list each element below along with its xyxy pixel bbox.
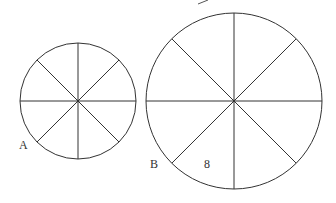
sector-label: 8 [204,157,210,172]
circle-a [20,43,136,159]
top-text-remnant [198,0,208,4]
circle-b [146,13,322,189]
label-b: B [150,157,158,172]
label-a: A [19,138,28,153]
two-circles-diagram [0,0,336,203]
